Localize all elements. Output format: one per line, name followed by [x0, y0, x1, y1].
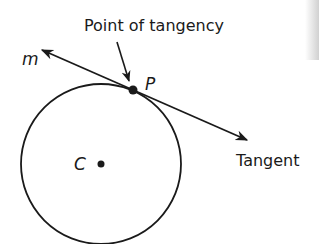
- tangent-label: Tangent: [236, 151, 299, 170]
- point-of-tangency-label: Point of tangency: [84, 16, 224, 35]
- line-m-label: m: [22, 49, 39, 69]
- center-c-label: C: [74, 154, 86, 174]
- tangent-diagram: [0, 0, 319, 244]
- tangent-line-m: [42, 50, 247, 140]
- point-p-label: P: [145, 74, 155, 94]
- point-of-tangency-pointer-arrow: [117, 42, 129, 81]
- page-edge-shadow: [305, 0, 319, 60]
- tangent-point-p: [129, 86, 138, 95]
- center-point-c: [98, 161, 105, 168]
